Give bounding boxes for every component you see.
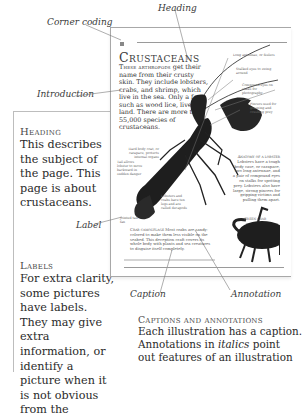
page-bottom-rule — [124, 267, 284, 268]
lobster-caption-body: Lobsters have a tough body case, or cara… — [233, 159, 280, 202]
captions-section-body: Each illustration has a caption. Annotat… — [138, 325, 288, 365]
lobster-caption: Anatomy of a lobster Lobsters have a tou… — [232, 155, 280, 203]
captions-section-title: Captions and annotations — [138, 314, 263, 325]
captions-line-1: Each illustration has a caption. — [138, 325, 288, 338]
crab-label: Green crab — [244, 217, 266, 221]
annotation-tail: Tail allows lobster to move backward in … — [117, 160, 145, 176]
captions-line-3: out features of an illustration — [138, 351, 288, 364]
annotation-decapods: Lobsters and crabs have ten legs and are… — [161, 194, 188, 210]
annotation-antennae: Long antennae, or feelers — [233, 53, 278, 57]
captions-line-2: Annotations in italics point — [138, 338, 288, 351]
annotation-pincers: Pincers used for grasping and crushing p… — [250, 102, 280, 114]
italic-word: italics — [218, 338, 250, 350]
camouflage-caption: Crab camouflage Most crabs are sandy-col… — [130, 228, 215, 252]
annotation-compound-eyes: Compound eyes on stalks for photography — [242, 83, 278, 95]
annotation-tail-fan: Jointed tail fan — [120, 216, 140, 224]
annotation-carapace: Hard body coat, or carapace, protects in… — [121, 147, 159, 159]
annotation-stalked-eyes: Stalked eyes to swing around — [236, 67, 276, 75]
